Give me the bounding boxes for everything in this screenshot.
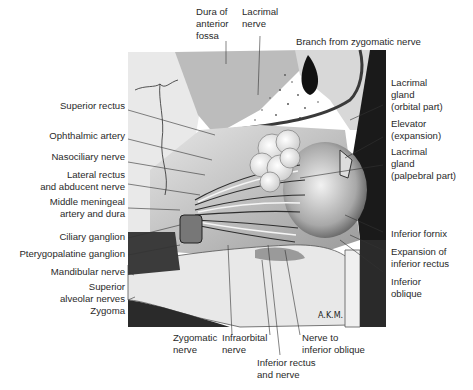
- label-inferior-rectus-nerve: Inferior rectus and nerve: [257, 357, 316, 381]
- label-elevator-expansion: Elevator (expansion): [391, 118, 441, 142]
- label-nerve-to-inferior-oblique: Nerve to inferior oblique: [302, 332, 365, 356]
- artist-signature: A.K.M.: [318, 311, 343, 320]
- label-zygomatic-nerve: Zygomatic nerve: [173, 332, 217, 356]
- label-nasociliary-nerve: Nasociliary nerve: [51, 151, 125, 163]
- label-expansion-inferior-rectus: Expansion of inferior rectus: [391, 246, 449, 270]
- label-pterygopalatine-ganglion: Pterygopalatine ganglion: [19, 248, 125, 260]
- label-zygoma: Zygoma: [90, 305, 125, 317]
- label-ophthalmic-artery: Ophthalmic artery: [49, 130, 125, 142]
- label-dura-anterior-fossa: Dura of anterior fossa: [196, 6, 229, 42]
- label-lateral-rectus-abducent: Lateral rectus and abducent nerve: [40, 169, 125, 193]
- label-inferior-fornix: Inferior fornix: [391, 228, 447, 240]
- label-superior-alveolar-nerves: Superior alveolar nerves: [60, 281, 125, 305]
- label-mandibular-nerve: Mandibular nerve: [51, 266, 125, 278]
- label-lacrimal-gland-palpebral: Lacrimal gland (palpebral part): [391, 146, 456, 182]
- label-superior-rectus: Superior rectus: [60, 100, 125, 112]
- label-ciliary-ganglion: Ciliary ganglion: [59, 231, 125, 243]
- label-lacrimal-gland-orbital: Lacrimal gland (orbital part): [391, 77, 443, 113]
- label-inferior-oblique: Inferior oblique: [391, 276, 422, 300]
- illustration-body: A.K.M.: [128, 50, 386, 327]
- label-middle-meningeal: Middle meningeal artery and dura: [50, 196, 125, 220]
- label-infraorbital-nerve: Infraorbital nerve: [222, 332, 267, 356]
- label-lacrimal-nerve: Lacrimal nerve: [242, 6, 278, 30]
- label-branch-zygomatic-nerve: Branch from zygomatic nerve: [296, 36, 421, 48]
